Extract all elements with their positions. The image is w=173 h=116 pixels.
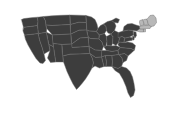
state-RI[interactable] <box>144 29 146 32</box>
map-container <box>0 0 173 116</box>
us-map[interactable] <box>0 0 173 116</box>
state-MT[interactable] <box>44 15 71 26</box>
state-CO[interactable] <box>53 34 72 45</box>
state-AL[interactable] <box>106 56 113 67</box>
